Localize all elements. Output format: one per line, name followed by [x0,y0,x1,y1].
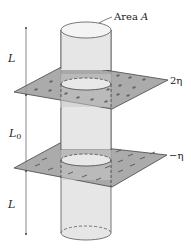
lower-charged-sheet [14,143,167,187]
area-leader-line [99,17,112,23]
area-label: Area A [113,11,148,22]
lower-density-label: −η [169,150,183,161]
upper-density-label: 2η [170,75,182,86]
bottom-length-label: L [7,198,15,211]
cylinder-top-face [61,22,111,38]
upper-charged-sheet [14,64,168,109]
dimension-line [25,27,27,235]
middle-length-label: L0 [8,127,21,141]
top-length-label: L [7,52,15,65]
gaussian-cylinder-diagram: Area A L L0 L 2η −η [0,0,191,250]
cylinder-middle [61,109,111,149]
